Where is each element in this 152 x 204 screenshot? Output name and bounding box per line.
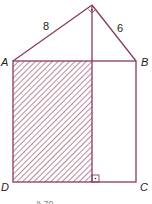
geometry-figure: 8 6 A B D C ä 79 [0, 0, 152, 204]
leg-right [92, 5, 136, 61]
right-angle-foot-dot [95, 178, 97, 180]
leg-left [13, 5, 92, 61]
label-left-leg: 8 [43, 20, 49, 32]
label-point-c: C [140, 181, 148, 193]
label-point-d: D [1, 181, 9, 193]
caption-cut: ä 79 [36, 199, 54, 204]
label-point-b: B [141, 56, 148, 68]
right-angle-apex-dot [91, 9, 93, 11]
label-right-leg: 6 [117, 22, 123, 34]
hatched-region [13, 61, 92, 182]
label-point-a: A [0, 56, 8, 68]
